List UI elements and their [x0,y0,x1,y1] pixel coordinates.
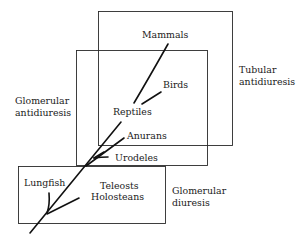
label-holosteans: Holosteans [91,191,144,202]
label-glomerular-diuresis-line2: diuresis [172,197,210,208]
label-glomerular-antidiuresis-line2: antidiuresis [15,107,71,118]
label-urodeles: Urodeles [115,152,158,163]
mammals-branch [134,44,168,103]
label-anurans: Anurans [126,130,167,141]
label-lungfish: Lungfish [24,177,65,188]
label-reptiles: Reptiles [113,106,152,117]
label-teleosts: Teleosts [100,180,139,191]
label-tubular-line1: Tubular [239,64,277,75]
label-glomerular-antidiuresis-line1: Glomerular [15,95,70,106]
label-mammals: Mammals [142,29,189,40]
label-birds: Birds [163,79,188,90]
birds-branch [142,92,161,104]
label-glomerular-diuresis-line1: Glomerular [172,185,227,196]
evolution-renal-function-diagram: Mammals Birds Reptiles Anurans Urodeles … [0,0,307,243]
label-tubular-line2: antidiuresis [239,76,295,87]
